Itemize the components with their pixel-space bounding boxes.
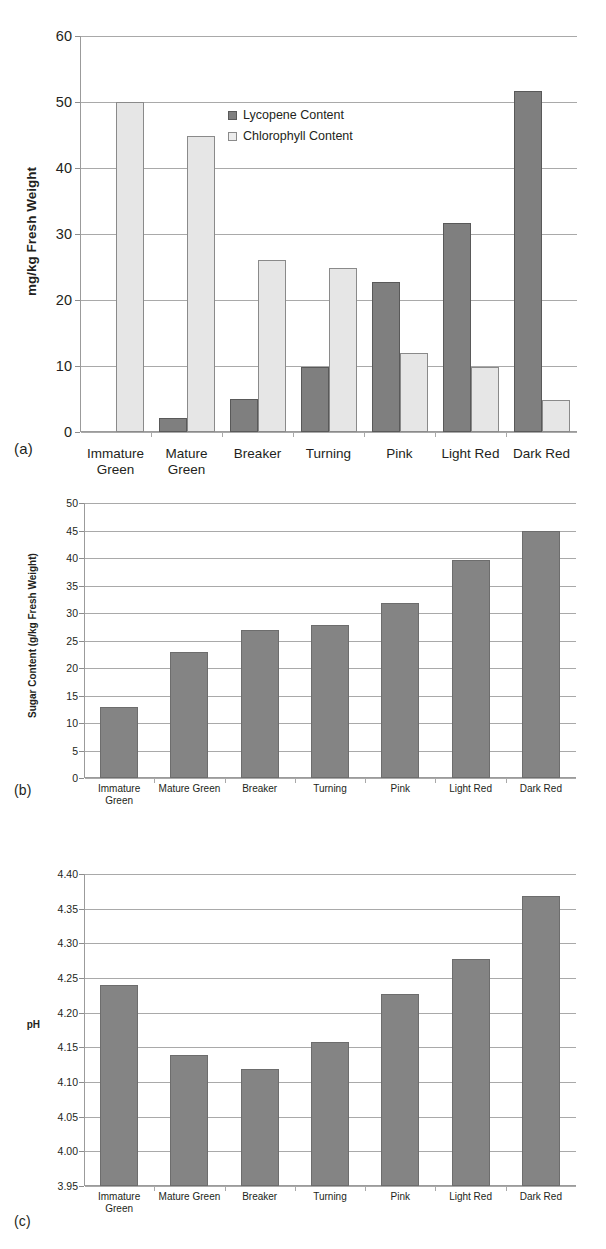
y-tick-label: 4.20 <box>50 1007 78 1019</box>
y-tick-label: 40 <box>52 552 78 564</box>
y-tick-mark <box>79 909 84 910</box>
panel-c-plot <box>84 874 576 1186</box>
y-tick-label: 30 <box>52 607 78 619</box>
bar-lycopene-content <box>301 367 329 432</box>
x-axis-label: Mature Green <box>154 783 224 795</box>
y-tick-mark <box>75 432 80 433</box>
x-axis-label: Turning <box>293 446 364 462</box>
y-tick-label: 50 <box>52 497 78 509</box>
x-axis-label: Pink <box>365 1191 435 1203</box>
bar-lycopene-content <box>514 91 542 432</box>
bar-breaker <box>241 1069 279 1186</box>
y-tick-label: 30 <box>38 226 72 242</box>
bar-breaker <box>241 630 279 778</box>
gridline <box>85 1186 576 1187</box>
panel-b-tag: (b) <box>14 782 32 798</box>
gridline <box>81 432 577 433</box>
y-tick-label: 4.30 <box>50 937 78 949</box>
bar-immature-green <box>100 707 138 779</box>
bar-mature-green <box>170 1055 208 1186</box>
x-tick-mark <box>151 432 152 437</box>
panel-c: (c) pH 3.954.004.054.104.154.204.254.304… <box>0 835 606 1249</box>
y-tick-label: 20 <box>38 292 72 308</box>
bar-chlorophyll-content <box>116 102 144 432</box>
y-tick-label: 15 <box>52 690 78 702</box>
y-tick-mark <box>79 978 84 979</box>
y-tick-label: 10 <box>38 358 72 374</box>
y-tick-mark <box>79 1151 84 1152</box>
x-axis-label: Pink <box>364 446 435 462</box>
bar-lycopene-content <box>230 399 258 432</box>
y-tick-mark <box>79 613 84 614</box>
bar-pink <box>381 994 419 1186</box>
y-tick-mark <box>79 943 84 944</box>
legend-item-lycopene: Lycopene Content <box>228 108 353 122</box>
legend-swatch-lycopene-icon <box>228 111 237 120</box>
x-axis-label: Light Red <box>435 783 505 795</box>
legend-item-chlorophyll: Chlorophyll Content <box>228 129 353 143</box>
legend-label-chlorophyll: Chlorophyll Content <box>243 129 353 143</box>
x-tick-mark <box>222 432 223 437</box>
panel-b: (b) Sugar Content (g/kg Fresh Weight) 05… <box>0 470 606 835</box>
x-axis-label: Light Red <box>435 446 506 462</box>
x-axis-label: Dark Red <box>506 446 577 462</box>
panel-a: (a) mg/kg Fresh Weight 0102030405060 Imm… <box>0 0 606 470</box>
y-tick-mark <box>79 1013 84 1014</box>
y-tick-mark <box>75 366 80 367</box>
x-axis-label: Pink <box>365 783 435 795</box>
y-tick-mark <box>79 723 84 724</box>
x-axis-label: Dark Red <box>506 1191 576 1203</box>
x-tick-mark <box>435 432 436 437</box>
y-tick-label: 4.40 <box>50 868 78 880</box>
y-tick-mark <box>79 1117 84 1118</box>
y-tick-mark <box>79 668 84 669</box>
bar-lycopene-content <box>159 418 187 432</box>
bar-chlorophyll-content <box>187 136 215 432</box>
y-tick-label: 20 <box>52 662 78 674</box>
x-axis-label: Mature Green <box>154 1191 224 1203</box>
y-tick-label: 4.15 <box>50 1041 78 1053</box>
panel-a-legend: Lycopene Content Chlorophyll Content <box>228 108 353 150</box>
y-tick-label: 3.95 <box>50 1180 78 1192</box>
y-tick-label: 4.00 <box>50 1145 78 1157</box>
x-axis-label: Dark Red <box>506 783 576 795</box>
y-tick-mark <box>75 234 80 235</box>
x-axis-label: Breaker <box>225 1191 295 1203</box>
panel-a-tag: (a) <box>14 440 33 457</box>
y-tick-label: 0 <box>52 772 78 784</box>
legend-label-lycopene: Lycopene Content <box>243 108 344 122</box>
y-tick-mark <box>79 751 84 752</box>
panel-c-bars <box>84 874 576 1186</box>
y-tick-mark <box>75 300 80 301</box>
y-tick-label: 0 <box>38 424 72 440</box>
panel-c-y-axis-label: pH <box>0 1019 40 1030</box>
bar-dark-red <box>522 531 560 778</box>
x-axis-label: Breaker <box>225 783 295 795</box>
bar-turning <box>311 1042 349 1186</box>
y-tick-label: 10 <box>52 717 78 729</box>
x-axis-label: Light Red <box>435 1191 505 1203</box>
y-tick-label: 35 <box>52 580 78 592</box>
panel-c-tag: (c) <box>14 1213 31 1229</box>
y-tick-mark <box>79 503 84 504</box>
x-axis-label: Turning <box>295 783 365 795</box>
y-tick-mark <box>79 558 84 559</box>
panel-a-bars <box>80 36 577 432</box>
x-axis-label: Turning <box>295 1191 365 1203</box>
x-tick-mark <box>364 432 365 437</box>
panel-a-y-axis-label: mg/kg Fresh Weight <box>24 122 39 342</box>
y-tick-label: 4.35 <box>50 903 78 915</box>
bar-lycopene-content <box>443 223 471 432</box>
bar-chlorophyll-content <box>400 353 428 432</box>
bar-light-red <box>452 560 490 778</box>
y-tick-mark <box>79 696 84 697</box>
y-tick-label: 40 <box>38 160 72 176</box>
y-tick-mark <box>79 531 84 532</box>
panel-a-plot <box>80 36 577 432</box>
panel-b-bars <box>84 503 576 778</box>
x-tick-mark <box>293 432 294 437</box>
bar-chlorophyll-content <box>471 367 499 432</box>
y-tick-label: 4.25 <box>50 972 78 984</box>
bar-light-red <box>452 959 490 1186</box>
y-tick-mark <box>79 874 84 875</box>
